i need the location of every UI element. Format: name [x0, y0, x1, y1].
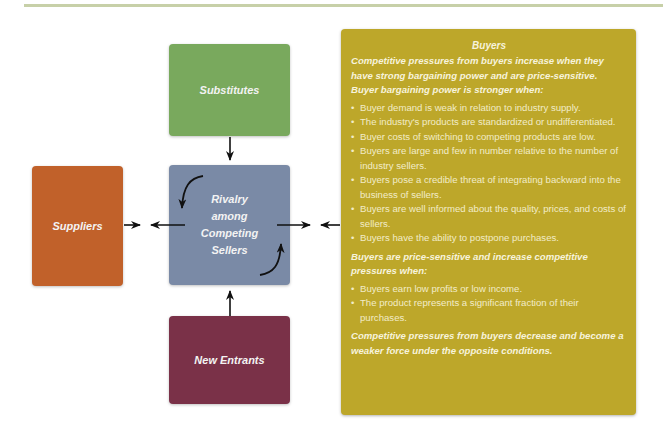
- list-item: Buyers earn low profits or low income.: [351, 282, 627, 297]
- buyers-panel: Buyers Competitive pressures from buyers…: [341, 29, 636, 415]
- list-item: Buyers are well informed about the quali…: [351, 202, 627, 231]
- curved-arrow-top-left: [182, 176, 203, 208]
- price-sensitive-lead-text: Buyers are price-sensitive and increase …: [351, 250, 627, 279]
- list-item: Buyers are large and few in number relat…: [351, 144, 627, 173]
- bargaining-lead-text: Competitive pressures from buyers increa…: [351, 54, 627, 98]
- curved-arrow-bottom-right: [260, 244, 281, 275]
- list-item: The industry's products are standardized…: [351, 115, 627, 130]
- list-item: The product represents a significant fra…: [351, 296, 627, 325]
- list-item: Buyers pose a credible threat of integra…: [351, 173, 627, 202]
- closing-text: Competitive pressures from buyers decrea…: [351, 329, 627, 358]
- bargaining-list: Buyer demand is weak in relation to indu…: [351, 101, 627, 246]
- buyers-title: Buyers: [351, 39, 627, 52]
- price-sensitive-list: Buyers earn low profits or low income. T…: [351, 282, 627, 326]
- list-item: Buyer costs of switching to competing pr…: [351, 130, 627, 145]
- list-item: Buyer demand is weak in relation to indu…: [351, 101, 627, 116]
- list-item: Buyers have the ability to postpone purc…: [351, 231, 627, 246]
